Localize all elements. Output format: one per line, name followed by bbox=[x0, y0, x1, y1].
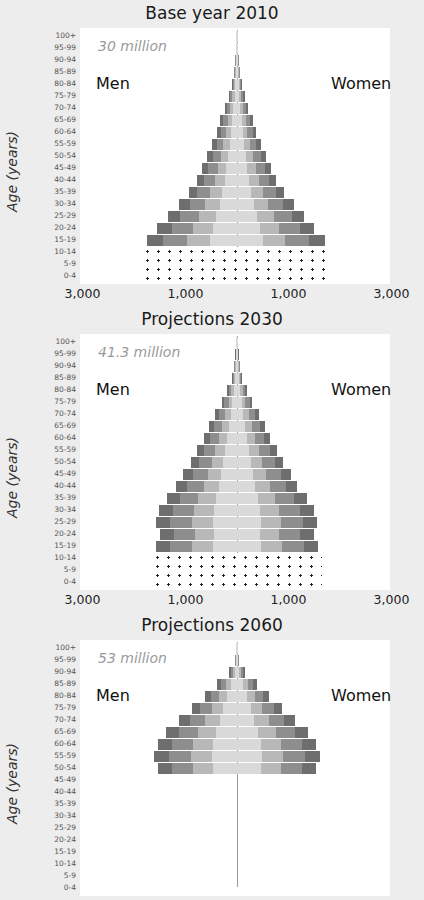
age-tick-label: 100+ bbox=[30, 642, 76, 654]
women-bar-40-44 bbox=[237, 481, 255, 492]
age-tick-label: 60-64 bbox=[30, 738, 76, 750]
women-bar-50-54 bbox=[237, 151, 246, 162]
age-tick-label: 40-44 bbox=[30, 786, 76, 798]
women-bar-65-69 bbox=[237, 727, 258, 738]
age-tick-label: 95-99 bbox=[30, 348, 76, 360]
age-tick-label: 85-89 bbox=[30, 678, 76, 690]
women-bar-85-89 bbox=[237, 373, 239, 384]
age-tick-label: 30-34 bbox=[30, 504, 76, 516]
age-tick-label: 85-89 bbox=[30, 66, 76, 78]
age-tick-label: 10-14 bbox=[30, 552, 76, 564]
women-bar-55-59 bbox=[237, 751, 262, 762]
age-tick-label: 25-29 bbox=[30, 822, 76, 834]
women-bar-75-79 bbox=[237, 91, 239, 102]
men-bar-65-69 bbox=[229, 421, 237, 432]
women-bar-35-39 bbox=[237, 493, 258, 504]
men-bar-30-34 bbox=[220, 199, 237, 210]
men-bar-40-44 bbox=[219, 481, 237, 492]
x-tick-label: 1,000 bbox=[168, 592, 204, 607]
women-bar-85-89 bbox=[237, 67, 238, 78]
age-tick-label: 60-64 bbox=[30, 126, 76, 138]
men-bar-25-29 bbox=[213, 517, 237, 528]
women-bar-55-59 bbox=[237, 139, 244, 150]
age-tick-label: 20-24 bbox=[30, 222, 76, 234]
y-axis-label: Age (years) bbox=[4, 131, 20, 212]
women-bar-80-84 bbox=[237, 79, 239, 90]
women-bar-30-34 bbox=[237, 505, 260, 516]
men-bar-35-39 bbox=[216, 493, 237, 504]
women-bar-45-49 bbox=[237, 163, 247, 174]
y-axis-label: Age (years) bbox=[4, 437, 20, 518]
men-bar-75-79 bbox=[223, 703, 237, 714]
women-bar-60-64 bbox=[237, 433, 247, 444]
x-tick-label: 3,000 bbox=[374, 592, 410, 607]
total-population-label: 30 million bbox=[98, 38, 167, 54]
chart-title: Base year 2010 bbox=[0, 3, 424, 23]
dotted-region-0-14 bbox=[152, 553, 322, 589]
women-bar-40-44 bbox=[237, 175, 249, 186]
age-tick-label: 80-84 bbox=[30, 384, 76, 396]
women-bar-100+ bbox=[237, 31, 238, 42]
women-bar-60-64 bbox=[237, 739, 261, 750]
men-bar-15-19 bbox=[213, 541, 237, 552]
age-tick-label: 10-14 bbox=[30, 858, 76, 870]
women-label: Women bbox=[331, 74, 391, 93]
women-bar-100+ bbox=[237, 337, 238, 348]
men-bar-15-19 bbox=[210, 235, 237, 246]
age-tick-label: 75-79 bbox=[30, 702, 76, 714]
women-bar-55-59 bbox=[237, 445, 249, 456]
age-tick-label: 10-14 bbox=[30, 246, 76, 258]
age-tick-label: 0-4 bbox=[30, 576, 76, 588]
age-tick-label: 65-69 bbox=[30, 726, 76, 738]
men-bar-60-64 bbox=[227, 433, 237, 444]
women-bar-65-69 bbox=[237, 115, 242, 126]
age-tick-label: 25-29 bbox=[30, 210, 76, 222]
age-tick-label: 40-44 bbox=[30, 480, 76, 492]
women-bar-80-84 bbox=[237, 691, 247, 702]
women-bar-50-54 bbox=[237, 457, 251, 468]
men-bar-40-44 bbox=[225, 175, 237, 186]
men-bar-25-29 bbox=[216, 211, 237, 222]
age-tick-label: 90-94 bbox=[30, 360, 76, 372]
x-tick-label: 3,000 bbox=[65, 286, 101, 301]
men-bar-20-24 bbox=[213, 223, 237, 234]
men-bar-50-54 bbox=[223, 457, 237, 468]
women-bar-80-84 bbox=[237, 385, 240, 396]
men-label: Men bbox=[96, 686, 130, 705]
women-bar-25-29 bbox=[237, 517, 261, 528]
age-tick-label: 80-84 bbox=[30, 78, 76, 90]
age-tick-label: 90-94 bbox=[30, 666, 76, 678]
men-bar-35-39 bbox=[222, 187, 237, 198]
age-tick-label: 5-9 bbox=[30, 564, 76, 576]
x-tick-label: 3,000 bbox=[374, 286, 410, 301]
age-tick-label: 60-64 bbox=[30, 432, 76, 444]
age-tick-label: 15-19 bbox=[30, 540, 76, 552]
chart-panel-2: Projections 203041.3 millionMenWomen100+… bbox=[0, 306, 424, 612]
age-tick-label: 30-34 bbox=[30, 198, 76, 210]
age-tick-label: 35-39 bbox=[30, 798, 76, 810]
age-tick-label: 15-19 bbox=[30, 234, 76, 246]
women-bar-30-34 bbox=[237, 199, 254, 210]
age-tick-label: 30-34 bbox=[30, 810, 76, 822]
age-tick-label: 85-89 bbox=[30, 372, 76, 384]
age-tick-label: 50-54 bbox=[30, 456, 76, 468]
men-bar-70-74 bbox=[231, 409, 237, 420]
age-tick-label: 95-99 bbox=[30, 654, 76, 666]
women-bar-65-69 bbox=[237, 421, 245, 432]
women-bar-70-74 bbox=[237, 715, 254, 726]
women-bar-90-94 bbox=[237, 667, 239, 678]
age-tick-label: 5-9 bbox=[30, 258, 76, 270]
women-bar-20-24 bbox=[237, 529, 260, 540]
women-label: Women bbox=[331, 380, 391, 399]
age-tick-label: 65-69 bbox=[30, 420, 76, 432]
age-tick-label: 35-39 bbox=[30, 186, 76, 198]
x-tick-label: 3,000 bbox=[65, 592, 101, 607]
women-bar-95-99 bbox=[237, 349, 238, 360]
age-tick-label: 100+ bbox=[30, 30, 76, 42]
age-tick-label: 95-99 bbox=[30, 42, 76, 54]
age-tick-label: 75-79 bbox=[30, 396, 76, 408]
men-label: Men bbox=[96, 380, 130, 399]
women-bar-15-19 bbox=[237, 541, 261, 552]
x-tick-label: 1,000 bbox=[271, 592, 307, 607]
women-bar-35-39 bbox=[237, 187, 251, 198]
